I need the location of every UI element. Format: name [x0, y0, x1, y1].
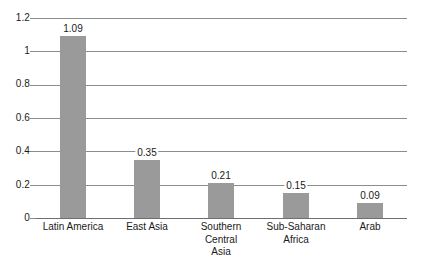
category-label-southern-central-asia: Southern Central Asia	[184, 221, 258, 259]
bar-chart: 1.2 1 0.8 0.6 0.4 0.2 0 1.09 0.35 0.21	[0, 0, 424, 277]
bar-east-asia	[134, 160, 160, 218]
bar-group-latin-america: 1.09	[36, 18, 110, 218]
bar-sub-saharan-africa	[283, 193, 309, 218]
y-tick-label-0.2: 0.2	[0, 180, 30, 190]
category-label-sub-saharan-africa: Sub-Saharan Africa	[259, 221, 333, 246]
category-label-line: East Asia	[110, 221, 184, 234]
bar-southern-central-asia	[208, 183, 234, 218]
y-tick-label-0.6: 0.6	[0, 113, 30, 123]
bars-layer: 1.09 0.35 0.21 0.15 0.09	[36, 18, 407, 218]
tick-mark-0	[30, 218, 36, 219]
category-label-line: Arab	[333, 221, 407, 234]
bar-value-southern-central-asia: 0.21	[209, 170, 232, 181]
y-axis-tick-labels: 1.2 1 0.8 0.6 0.4 0.2 0	[0, 0, 30, 277]
bar-group-east-asia: 0.35	[110, 18, 184, 218]
x-axis-category-labels: Latin America East Asia Southern Central…	[36, 221, 407, 277]
bar-group-sub-saharan-africa: 0.15	[259, 18, 333, 218]
category-label-line: Latin America	[36, 221, 110, 234]
bar-value-latin-america: 1.09	[61, 23, 84, 34]
bar-latin-america	[60, 36, 86, 218]
bar-arab	[357, 203, 383, 218]
bar-value-arab: 0.09	[358, 190, 381, 201]
category-label-line: Central	[184, 234, 258, 247]
category-label-line: Southern	[184, 221, 258, 234]
category-label-arab: Arab	[333, 221, 407, 234]
bar-value-east-asia: 0.35	[135, 147, 158, 158]
y-tick-label-0: 0	[0, 213, 30, 223]
category-label-line: Africa	[259, 234, 333, 247]
axis-baseline-0	[36, 218, 407, 219]
y-tick-label-1: 1	[0, 46, 30, 56]
bar-group-southern-central-asia: 0.21	[184, 18, 258, 218]
category-label-line: Sub-Saharan	[259, 221, 333, 234]
y-tick-label-0.4: 0.4	[0, 146, 30, 156]
bar-value-sub-saharan-africa: 0.15	[284, 180, 307, 191]
category-label-east-asia: East Asia	[110, 221, 184, 234]
y-tick-label-0.8: 0.8	[0, 79, 30, 89]
category-label-latin-america: Latin America	[36, 221, 110, 234]
category-label-line: Asia	[184, 246, 258, 259]
y-tick-label-1.2: 1.2	[0, 13, 30, 23]
bar-group-arab: 0.09	[333, 18, 407, 218]
